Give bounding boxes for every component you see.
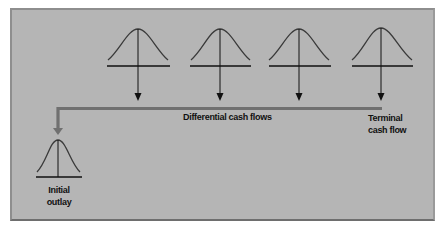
arrow-down-icon: [135, 93, 142, 101]
terminal-cash-flow-distribution: [352, 28, 413, 101]
differential-cash-flow-distribution-1: [107, 29, 170, 101]
initial-label-line2: outlay: [36, 196, 82, 208]
terminal-label-line1: Terminal: [368, 112, 406, 124]
arrow-down-icon: [378, 93, 385, 101]
arrow-down-icon: [217, 93, 224, 101]
differential-cash-flows-label: Differential cash flows: [183, 111, 272, 123]
initial-outlay-distribution: [36, 140, 82, 177]
arrow-down-icon: [296, 93, 303, 101]
terminal-cash-flow-label: Terminal cash flow: [368, 112, 406, 136]
differential-cash-flow-distribution-3: [269, 29, 331, 101]
initial-outlay-label: Initial outlay: [36, 184, 82, 208]
initial-label-line1: Initial: [36, 184, 82, 196]
terminal-label-line2: cash flow: [368, 124, 406, 136]
differential-cash-flow-distribution-2: [190, 29, 251, 101]
